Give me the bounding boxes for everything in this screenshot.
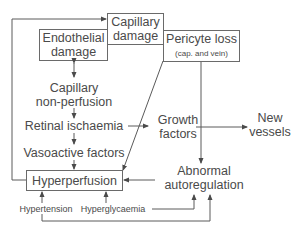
node-hyperperfusion: Hyperperfusion (27, 171, 123, 191)
capillary-nonperfusion-line1: Capillary (50, 81, 99, 95)
pericyte-loss-line1: Pericyte loss (166, 32, 237, 46)
node-capillary-damage: Capillary damage (108, 14, 164, 45)
node-endothelial-damage: Endothelial damage (40, 30, 108, 61)
node-capillary-nonperfusion: Capillary non-perfusion (36, 81, 112, 109)
edge-hyperglycaemia-to-abnormal-autoregulation (152, 195, 194, 209)
endothelial-damage-line2: damage (51, 45, 96, 59)
abnormal-autoregulation-line2: autoregulation (164, 178, 243, 192)
growth-factors-line2: factors (159, 127, 197, 141)
capillary-nonperfusion-line2: non-perfusion (36, 95, 112, 109)
node-retinal-ischaemia: Retinal ischaemia (25, 119, 124, 133)
capillary-damage-line1: Capillary (111, 15, 160, 29)
pericyte-loss-line2: (cap. and vein) (175, 49, 228, 58)
capillary-damage-line2: damage (113, 29, 158, 43)
new-vessels-line1: New (257, 111, 283, 125)
node-hyperglycaemia: Hyperglycaemia (81, 204, 146, 214)
node-growth-factors: Growth factors (158, 113, 198, 141)
new-vessels-line2: vessels (249, 125, 291, 139)
node-abnormal-autoregulation: Abnormal autoregulation (164, 164, 243, 192)
node-pericyte-loss: Pericyte loss (cap. and vein) (164, 31, 240, 62)
endothelial-damage-line1: Endothelial (43, 31, 105, 45)
node-new-vessels: New vessels (249, 111, 291, 139)
abnormal-autoregulation-line1: Abnormal (177, 164, 231, 178)
node-vasoactive-factors: Vasoactive factors (23, 146, 124, 160)
node-hypertension: Hypertension (19, 204, 72, 214)
growth-factors-line1: Growth (158, 113, 198, 127)
hyperperfusion-label: Hyperperfusion (32, 174, 117, 188)
pathogenesis-diagram: Capillary damage Endothelial damage Peri… (0, 0, 302, 231)
